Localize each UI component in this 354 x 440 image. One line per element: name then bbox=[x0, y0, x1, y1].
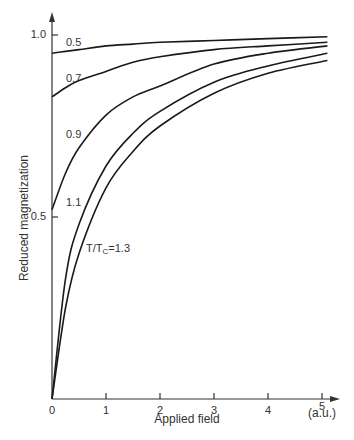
x-axis-unit: (a.u.) bbox=[308, 406, 336, 420]
magnetization-chart bbox=[0, 0, 354, 440]
x-tick-label-0: 0 bbox=[44, 404, 60, 416]
x-axis-title: Applied field bbox=[154, 412, 219, 426]
curve-label-07: 0.7 bbox=[66, 72, 81, 84]
curve-label-09: 0.9 bbox=[66, 128, 81, 140]
curve-label-13: T/TC=1.3 bbox=[86, 242, 130, 256]
x-ticks bbox=[106, 393, 322, 399]
x-tick-label-1: 1 bbox=[98, 404, 114, 416]
curves bbox=[52, 37, 327, 399]
curve-label-11: 1.1 bbox=[66, 196, 81, 208]
y-axis-arrow-icon bbox=[49, 12, 55, 22]
curve-09 bbox=[52, 46, 327, 210]
curve-label-05: 0.5 bbox=[66, 36, 81, 48]
curve-label-13-prefix: T/T bbox=[86, 242, 103, 254]
curve-label-13-suffix: =1.3 bbox=[108, 242, 130, 254]
x-tick-label-4: 4 bbox=[260, 404, 276, 416]
x-axis-arrow-icon bbox=[330, 396, 340, 402]
curve-13 bbox=[52, 61, 327, 400]
curve-11 bbox=[52, 53, 327, 399]
y-tick-label-1: 1.0 bbox=[22, 28, 46, 40]
y-axis-title: Reduced magnetization bbox=[17, 155, 31, 281]
